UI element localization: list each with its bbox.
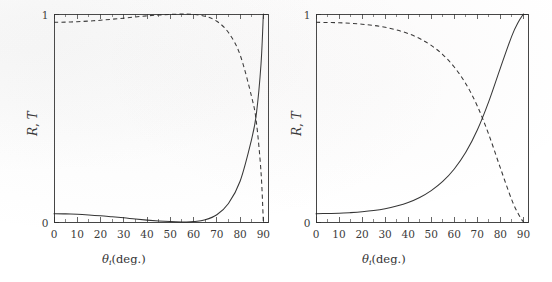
fresnel-figure: 010203040506070809010 R, T θi(deg.) 0102… (0, 0, 552, 282)
right-xlabel-theta: θ (362, 252, 369, 266)
x-tick-label: 90 (257, 228, 270, 240)
x-tick-label: 50 (425, 228, 438, 240)
left-xlabel-unit: (deg.) (112, 252, 146, 266)
x-tick-label: 70 (210, 228, 223, 240)
y-tick-label-top: 1 (42, 9, 49, 21)
curve-R-solid (54, 14, 263, 222)
curve-T-dashed (316, 22, 523, 222)
right-ylabel-R: R (290, 127, 304, 136)
right-ylabel-comma: , (290, 119, 304, 127)
x-tick-label: 80 (233, 228, 246, 240)
left-ylabel-comma: , (26, 119, 40, 127)
x-tick-label: 90 (517, 228, 530, 240)
plot-frame (316, 14, 528, 222)
x-tick-label: 10 (332, 228, 345, 240)
curve-T-dashed (54, 14, 263, 222)
x-tick-label: 0 (313, 228, 320, 240)
x-tick-label-group: 010203040506070809010 (304, 9, 530, 240)
x-tick-label: 30 (378, 228, 391, 240)
right-x-axis-title: θi(deg.) (362, 252, 406, 267)
left-y-axis-title: R, T (26, 111, 40, 136)
y-tick-label-bottom: 0 (304, 217, 311, 229)
left-xlabel-theta: θ (102, 252, 109, 266)
y-tick-label-bottom: 0 (42, 217, 49, 229)
x-tick-label: 40 (140, 228, 153, 240)
right-xlabel-unit: (deg.) (372, 252, 406, 266)
right-panel: 010203040506070809010 R, T θi(deg.) (276, 0, 552, 282)
y-tick-label-top: 1 (304, 9, 311, 21)
left-panel: 010203040506070809010 R, T θi(deg.) (0, 0, 276, 282)
tick-group (316, 14, 528, 222)
left-ylabel-T: T (26, 111, 40, 119)
x-tick-label: 40 (401, 228, 414, 240)
left-ylabel-R: R (26, 127, 40, 136)
right-plot-canvas: 010203040506070809010 (276, 0, 552, 282)
x-tick-label: 0 (51, 228, 58, 240)
curves-group (54, 14, 263, 222)
x-tick-label: 10 (71, 228, 84, 240)
x-tick-label: 80 (494, 228, 507, 240)
plot-frame-group (316, 14, 528, 222)
x-tick-label: 20 (94, 228, 107, 240)
x-tick-label: 60 (448, 228, 461, 240)
left-plot-canvas: 010203040506070809010 (0, 0, 276, 282)
right-y-axis-title: R, T (290, 111, 304, 136)
curve-R-solid (316, 14, 523, 214)
x-tick-label: 50 (164, 228, 177, 240)
x-tick-label: 60 (187, 228, 200, 240)
left-x-axis-title: θi(deg.) (102, 252, 146, 267)
right-ylabel-T: T (290, 111, 304, 119)
x-tick-label: 70 (471, 228, 484, 240)
x-tick-label: 20 (355, 228, 368, 240)
curves-group (316, 14, 523, 222)
x-tick-label: 30 (117, 228, 130, 240)
